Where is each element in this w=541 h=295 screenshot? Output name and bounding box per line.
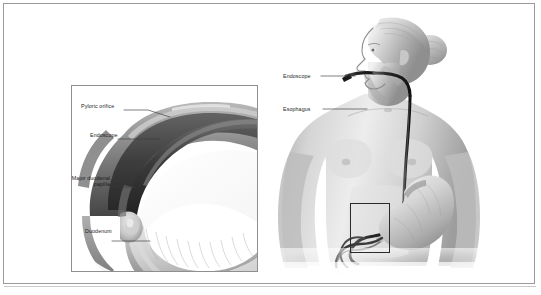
- papilla-label-line-2: papilla: [94, 181, 110, 187]
- body-label-endoscope: Endoscope: [283, 73, 311, 79]
- body-figure-artwork: [268, 10, 533, 275]
- illustration-page: Pyloric orifice Endoscope Major duodenal…: [0, 0, 541, 295]
- inset-label-endoscope: Endoscope: [90, 132, 118, 138]
- papilla-label-line-1: Major duodenal: [72, 175, 110, 181]
- inset-label-major-duodenal-papilla: Major duodenal papilla: [56, 175, 110, 188]
- duodenum-detail-box: [350, 203, 390, 253]
- body-label-esophagus: Esophagus: [283, 106, 311, 112]
- plate-border-shadow: [4, 286, 536, 287]
- inset-label-pyloric-orifice: Pyloric orifice: [81, 103, 114, 109]
- inset-label-duodenum: Duodenum: [85, 228, 112, 234]
